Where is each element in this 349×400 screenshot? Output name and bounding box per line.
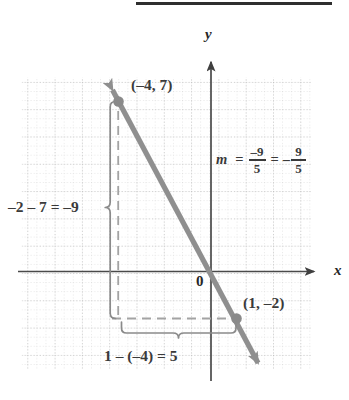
slope-numerator-first: –9 bbox=[249, 145, 266, 159]
rise-calculation-label: –2 – 7 = –9 bbox=[8, 199, 79, 215]
run-calculation-label: 1 – (–4) = 5 bbox=[104, 348, 177, 364]
slope-denominator-first: 5 bbox=[252, 161, 263, 175]
grid-area bbox=[22, 78, 311, 370]
slope-illustration-figure: y x 0 (–4, 7) (1, –2) –2 – 7 = –9 1 – (–… bbox=[0, 0, 349, 400]
slope-fraction-first: –9 5 bbox=[249, 145, 266, 175]
slope-fraction-second: 9 5 bbox=[291, 145, 306, 175]
slope-variable: m bbox=[216, 151, 227, 168]
slope-equals-second: = bbox=[271, 151, 279, 168]
slope-equation: m = –9 5 = – 9 5 bbox=[216, 145, 307, 175]
slope-equals-first: = bbox=[235, 151, 243, 168]
x-axis-label: x bbox=[334, 263, 342, 278]
y-axis-label: y bbox=[205, 27, 212, 42]
origin-label: 0 bbox=[196, 274, 204, 289]
slope-numerator-second: 9 bbox=[293, 145, 304, 159]
point-label-1-neg2: (1, –2) bbox=[243, 295, 284, 311]
slope-denominator-second: 5 bbox=[293, 161, 304, 175]
slope-minus-sign: – bbox=[283, 151, 290, 168]
point-label-neg4-7: (–4, 7) bbox=[131, 77, 172, 93]
